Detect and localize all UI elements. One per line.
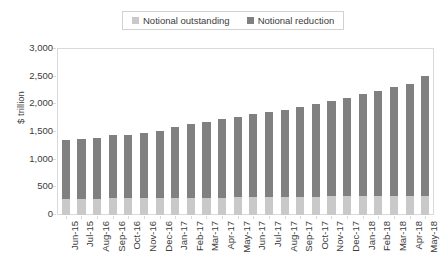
x-axis-tick-label: Jan-18 bbox=[367, 221, 377, 250]
bar-segment-notional-reduction bbox=[187, 124, 195, 198]
bar-segment-notional-outstanding bbox=[327, 196, 335, 215]
bar-segment-notional-reduction bbox=[406, 84, 414, 196]
bar-group bbox=[187, 49, 195, 215]
bar-stack bbox=[327, 101, 335, 215]
bar-group bbox=[124, 49, 132, 215]
bar-stack bbox=[406, 84, 414, 215]
x-axis-tick-label: Nov-16 bbox=[148, 221, 158, 252]
bar-segment-notional-reduction bbox=[234, 117, 242, 198]
legend-swatch-reduction bbox=[247, 17, 254, 24]
x-axis-tick-label: Dec-16 bbox=[164, 221, 174, 252]
bar-stack bbox=[77, 139, 85, 215]
x-axis-tick-mark bbox=[160, 216, 161, 219]
y-axis-tick-label: 3,000 bbox=[9, 43, 53, 53]
x-axis-tick-label: Jun-17 bbox=[257, 221, 267, 250]
y-axis-tick-mark bbox=[53, 131, 56, 132]
bar-segment-notional-reduction bbox=[421, 76, 429, 196]
bar-segment-notional-outstanding bbox=[93, 199, 101, 215]
bar-segment-notional-outstanding bbox=[77, 199, 85, 215]
x-axis-tick-label: Feb-18 bbox=[382, 221, 392, 251]
bar-stack bbox=[93, 138, 101, 215]
bar-segment-notional-reduction bbox=[171, 127, 179, 198]
x-axis-tick-mark bbox=[128, 216, 129, 219]
bar-segment-notional-outstanding bbox=[140, 198, 148, 215]
bar-group bbox=[234, 49, 242, 215]
y-axis-tick-mark bbox=[53, 103, 56, 104]
bar-stack bbox=[109, 135, 117, 215]
bar-stack bbox=[374, 91, 382, 215]
bar-group bbox=[202, 49, 210, 215]
x-axis-tick-label: Aug-17 bbox=[289, 221, 299, 252]
y-axis-tick-mark bbox=[53, 48, 56, 49]
bar-group bbox=[343, 49, 351, 215]
bar-segment-notional-outstanding bbox=[171, 198, 179, 215]
x-axis-tick-label: Mar-18 bbox=[398, 221, 408, 251]
legend-item-notional-outstanding: Notional outstanding bbox=[132, 16, 230, 26]
bar-segment-notional-reduction bbox=[62, 140, 70, 199]
bar-stack bbox=[234, 117, 242, 215]
legend-label-notional-outstanding: Notional outstanding bbox=[143, 16, 230, 26]
x-axis-tick-mark bbox=[363, 216, 364, 219]
legend-swatch-outstanding bbox=[132, 17, 139, 24]
bar-segment-notional-reduction bbox=[327, 101, 335, 197]
x-axis-tick-label: Jan-17 bbox=[179, 221, 189, 250]
bar-segment-notional-outstanding bbox=[218, 198, 226, 215]
bar-segment-notional-outstanding bbox=[265, 197, 273, 215]
bar-segment-notional-outstanding bbox=[187, 198, 195, 215]
bar-stack bbox=[124, 135, 132, 216]
bar-stack bbox=[187, 124, 195, 215]
bar-segment-notional-reduction bbox=[156, 131, 164, 198]
x-axis-tick-label: Aug-16 bbox=[101, 221, 111, 252]
bar-segment-notional-outstanding bbox=[374, 196, 382, 215]
bar-group bbox=[140, 49, 148, 215]
x-axis-tick-mark bbox=[410, 216, 411, 219]
bar-segment-notional-outstanding bbox=[234, 197, 242, 215]
y-axis-tick-mark bbox=[53, 76, 56, 77]
y-axis-tick-label: 1,500 bbox=[9, 126, 53, 136]
bar-segment-notional-outstanding bbox=[390, 196, 398, 215]
chart-container: Notional outstanding Notional reduction … bbox=[0, 0, 442, 273]
bar-group bbox=[93, 49, 101, 215]
x-axis-tick-mark bbox=[300, 216, 301, 219]
legend-label-notional-reduction: Notional reduction bbox=[258, 16, 335, 26]
bar-segment-notional-reduction bbox=[124, 135, 132, 199]
x-axis-tick-label: Oct-16 bbox=[132, 221, 142, 250]
x-axis-tick-label: Feb-17 bbox=[195, 221, 205, 251]
y-axis-tick-group: 3,0002,5002,0001,5001,0005000 bbox=[5, 48, 53, 215]
bar-segment-notional-outstanding bbox=[359, 196, 367, 215]
bar-stack bbox=[62, 140, 70, 215]
bar-group bbox=[359, 49, 367, 215]
y-axis-tick-label: 1,000 bbox=[9, 154, 53, 164]
bar-segment-notional-outstanding bbox=[202, 198, 210, 215]
bar-stack bbox=[312, 104, 320, 215]
y-axis-tick-mark bbox=[53, 214, 56, 215]
x-axis-tick-label: Jul-15 bbox=[85, 221, 95, 247]
y-axis-tick-mark bbox=[53, 186, 56, 187]
bar-group bbox=[390, 49, 398, 215]
x-axis-tick-mark bbox=[206, 216, 207, 219]
bar-segment-notional-reduction bbox=[312, 104, 320, 196]
bar-group bbox=[406, 49, 414, 215]
x-axis-tick-mark bbox=[269, 216, 270, 219]
x-axis-tick-mark bbox=[144, 216, 145, 219]
bar-group bbox=[312, 49, 320, 215]
bar-group bbox=[156, 49, 164, 215]
bar-group bbox=[296, 49, 304, 215]
bar-segment-notional-outstanding bbox=[421, 196, 429, 215]
y-axis-tick-label: 2,000 bbox=[9, 99, 53, 109]
bar-stack bbox=[140, 133, 148, 215]
bar-segment-notional-outstanding bbox=[406, 196, 414, 215]
x-axis-tick-label: Dec-17 bbox=[351, 221, 361, 252]
x-axis-tick-mark bbox=[81, 216, 82, 219]
bar-segment-notional-reduction bbox=[281, 110, 289, 197]
bar-segment-notional-outstanding bbox=[124, 198, 132, 215]
bar-stack bbox=[359, 94, 367, 215]
bar-segment-notional-outstanding bbox=[62, 199, 70, 215]
x-axis-tick-mark bbox=[331, 216, 332, 219]
x-axis-tick-label: Jun-15 bbox=[70, 221, 80, 250]
x-axis-tick-mark bbox=[97, 216, 98, 219]
x-axis-tick-mark bbox=[285, 216, 286, 219]
bar-stack bbox=[171, 127, 179, 215]
bar-segment-notional-reduction bbox=[265, 112, 273, 197]
x-axis-tick-mark bbox=[253, 216, 254, 219]
